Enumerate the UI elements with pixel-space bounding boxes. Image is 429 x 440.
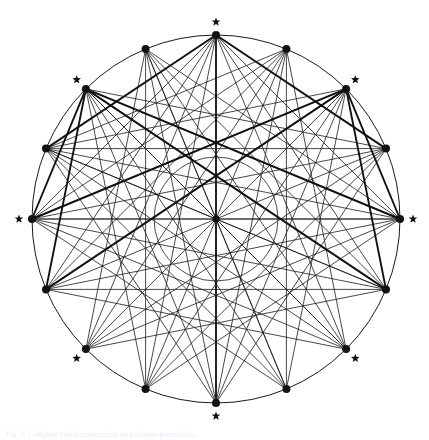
vertex-dot bbox=[28, 215, 36, 223]
vertex-dot bbox=[142, 385, 150, 393]
vertex-dot bbox=[82, 345, 90, 353]
vertex-dot bbox=[142, 45, 150, 53]
figure-caption: Fig. 1. Complete chord construction on a… bbox=[6, 430, 197, 439]
vertex-dot bbox=[382, 145, 390, 153]
compass-rose-diagram bbox=[0, 0, 429, 440]
vertex-dot bbox=[42, 145, 50, 153]
vertex-dot bbox=[342, 85, 350, 93]
figure-root: Fig. 1. Complete chord construction on a… bbox=[0, 0, 429, 440]
vertex-dot bbox=[212, 399, 220, 407]
center-point-layer bbox=[212, 215, 219, 222]
vertex-dot bbox=[82, 85, 90, 93]
vertex-dot bbox=[282, 385, 290, 393]
vertex-dot bbox=[282, 45, 290, 53]
vertex-dot bbox=[342, 345, 350, 353]
vertex-dot bbox=[396, 215, 404, 223]
vertex-dot bbox=[212, 31, 220, 39]
vertex-dot bbox=[382, 285, 390, 293]
center-point bbox=[212, 215, 219, 222]
vertex-dot bbox=[42, 285, 50, 293]
